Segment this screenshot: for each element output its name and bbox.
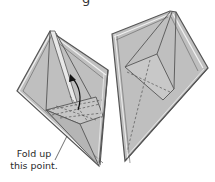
- fold-instruction-caption: Fold up this point.: [4, 148, 64, 172]
- caption-line-1: Fold up: [4, 148, 64, 160]
- caption-line-2: this point.: [4, 160, 64, 172]
- right-model: [112, 11, 208, 163]
- left-model: [17, 31, 108, 166]
